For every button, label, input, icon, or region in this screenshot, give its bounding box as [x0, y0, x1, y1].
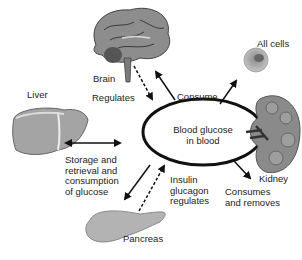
kidney-consumes-label: Consumes and removes	[225, 187, 280, 208]
center-label: Blood glucose in blood	[148, 124, 258, 146]
regulates-label: Regulates	[92, 93, 135, 104]
to-pancreas-arrow	[125, 165, 150, 199]
pancreas-regulates-arrow	[139, 166, 164, 211]
pancreas-regulates-label: Insulin glucagon regulates	[170, 175, 209, 207]
liver-label: Liver	[27, 90, 48, 101]
center-line2: in blood	[148, 135, 258, 146]
brain-regulates-arrow	[134, 66, 152, 99]
all-cells-label: All cells	[257, 39, 289, 50]
kidney-label: Kidney	[259, 174, 288, 185]
liver-storage-label: Storage and retrieval and consumption of…	[65, 155, 119, 197]
kidney-consumes-arrow	[234, 161, 250, 178]
liver-icon	[13, 108, 88, 154]
consume-to-brain-arrow	[156, 72, 175, 100]
consume-label: Consume	[177, 92, 218, 103]
pancreas-label: Pancreas	[123, 234, 163, 245]
brain-icon	[94, 8, 170, 82]
center-line1: Blood glucose	[148, 124, 258, 135]
brain-label: Brain	[93, 74, 115, 85]
cell-icon	[244, 48, 268, 72]
